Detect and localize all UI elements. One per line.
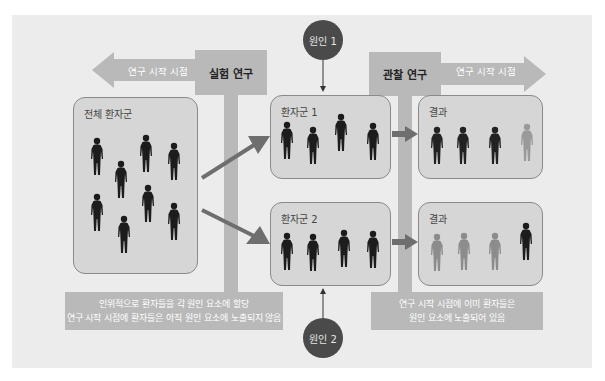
observational-note-line-1: 연구 시작 시점에 이미 환자들은	[371, 297, 543, 311]
experimental-note-line-2: 연구 시작 시점에 환자들은 아직 원인 요소에 노출되지 않음	[65, 311, 283, 325]
person-icon	[366, 122, 380, 162]
person-icon	[139, 134, 153, 174]
person-icon	[488, 232, 502, 272]
observational-note: 연구 시작 시점에 이미 환자들은 원인 요소에 노출되어 있음	[371, 292, 543, 330]
patient-group-1-title: 환자군 1	[281, 104, 318, 119]
person-icon	[90, 137, 104, 177]
observational-study-label: 관찰 연구	[369, 52, 441, 96]
experimental-arrow-text: 연구 시작 시점	[128, 64, 188, 78]
arrow-right-icon	[392, 234, 418, 250]
person-icon	[430, 126, 444, 166]
person-icon	[280, 121, 294, 161]
person-icon	[280, 232, 294, 272]
person-icon	[334, 113, 348, 153]
person-icon	[117, 215, 131, 255]
person-icon	[114, 160, 128, 200]
experimental-note: 인위적으로 환자들을 각 원인 요소에 할당 연구 시작 시점에 환자들은 아직…	[65, 292, 283, 330]
observational-note-line-2: 원인 요소에 노출되어 있음	[371, 311, 543, 325]
whole-population-box: 전체 환자군	[73, 97, 198, 274]
result-2-title: 결과	[429, 211, 447, 226]
person-icon	[520, 123, 534, 163]
cause-2-circle: 원인 2	[303, 318, 343, 358]
arrow-down-icon	[319, 60, 327, 92]
person-icon	[167, 202, 181, 242]
person-icon	[167, 142, 181, 182]
person-icon	[337, 229, 351, 269]
whole-population-title: 전체 환자군	[84, 106, 132, 121]
person-icon	[306, 233, 320, 273]
arrow-right-icon	[392, 126, 418, 142]
person-icon	[90, 193, 104, 233]
patient-group-2-title: 환자군 2	[281, 211, 318, 226]
arrow-up-icon	[319, 288, 327, 318]
cause-1-circle: 원인 1	[303, 20, 343, 60]
person-icon	[306, 126, 320, 166]
experimental-note-line-1: 인위적으로 환자들을 각 원인 요소에 할당	[65, 297, 283, 311]
person-icon	[519, 222, 533, 262]
result-1-title: 결과	[429, 104, 447, 119]
assignment-arrows-icon	[200, 130, 272, 250]
observational-arrow-text: 연구 시작 시점	[456, 64, 516, 78]
person-icon	[488, 126, 502, 166]
person-icon	[457, 232, 471, 272]
person-icon	[430, 233, 444, 273]
person-icon	[141, 184, 155, 224]
person-icon	[456, 126, 470, 166]
experimental-study-label: 실험 연구	[195, 50, 267, 95]
person-icon	[366, 230, 380, 270]
